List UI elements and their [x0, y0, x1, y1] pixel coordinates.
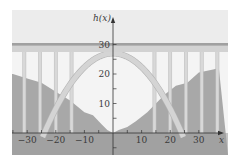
x-tick-label: −10: [75, 135, 94, 145]
pillar: [38, 52, 41, 134]
panel-top-shade: [12, 10, 228, 44]
x-tick-label: −30: [18, 135, 37, 145]
y-axis-label: h(x): [93, 13, 111, 23]
pillar: [200, 52, 203, 134]
pillar: [153, 52, 156, 134]
pillar: [184, 52, 187, 134]
y-tick-label: 30: [99, 40, 111, 50]
x-axis-label: x: [219, 135, 224, 145]
bridge-deck: [12, 43, 228, 52]
y-tick-label: 20: [99, 69, 111, 79]
x-tick-label: 20: [164, 135, 176, 145]
pillar: [54, 52, 57, 134]
x-tick-label: 30: [193, 135, 205, 145]
pillar: [169, 52, 172, 134]
x-tick-label: −20: [46, 135, 65, 145]
y-tick-label: 10: [99, 99, 111, 109]
pillar: [70, 52, 73, 134]
pillar: [23, 52, 26, 134]
bridge-arch-figure: h(x) x −30−20−10102030102030: [0, 0, 240, 160]
pillar: [216, 52, 219, 134]
deck-top-line: [12, 43, 228, 46]
x-tick-label: 10: [136, 135, 148, 145]
deck-band: [12, 45, 228, 52]
